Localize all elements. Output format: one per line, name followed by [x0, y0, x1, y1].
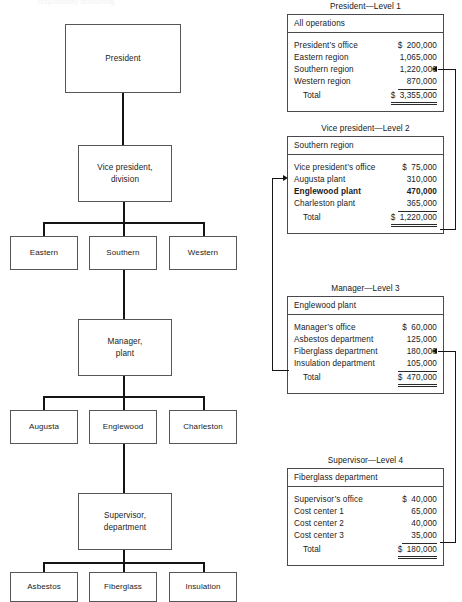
connector-bus-to-charleston: [203, 396, 205, 410]
table-row: Manager’s office $60,000: [294, 322, 437, 334]
org-node-president-label: President: [102, 53, 144, 65]
report-level-2-box: Southern region Vice president’s office …: [287, 136, 444, 234]
table-row: Vice president’s office $75,000: [294, 162, 437, 174]
org-node-asbestos[interactable]: Asbestos: [10, 572, 78, 602]
flow-l2-to-l1-vertical: [455, 69, 456, 230]
table-row-southern-region: Southern region 1,220,000: [294, 64, 437, 76]
report-level-1-title: President—Level 1: [287, 2, 444, 11]
flow-l3-total-out: [272, 370, 289, 371]
org-node-southern-label: Southern: [103, 247, 142, 259]
table-row: Charleston plant 365,000: [294, 198, 437, 211]
table-row: Cost center 3 35,000: [294, 530, 437, 543]
org-node-manager-label-line1: Manager,: [105, 336, 146, 348]
report-level-4: Supervisor—Level 4 Fiberglass department…: [287, 456, 444, 566]
table-row: Augusta plant 310,000: [294, 174, 437, 186]
org-node-asbestos-label: Asbestos: [24, 581, 64, 593]
connector-englewood-to-supervisor: [123, 444, 125, 493]
report-level-3-box: Englewood plant Manager’s office $60,000…: [287, 296, 444, 394]
table-row: Asbestos department 125,000: [294, 334, 437, 346]
flow-arrow-l3-fiberglass: [432, 348, 437, 354]
table-row: Cost center 2 40,000: [294, 518, 437, 530]
flow-l3-fiberglass-in: [438, 351, 455, 352]
org-node-manager-label-line2: plant: [113, 348, 137, 360]
report-level-3-title: Manager—Level 3: [287, 284, 444, 293]
org-node-manager[interactable]: Manager, plant: [78, 319, 172, 376]
report-level-4-body: Supervisor’s office $40,000 Cost center …: [288, 487, 443, 565]
connector-bus-to-eastern: [43, 222, 45, 236]
org-node-western[interactable]: Western: [169, 236, 237, 270]
org-node-fiberglass[interactable]: Fiberglass: [89, 572, 157, 602]
org-node-president[interactable]: President: [65, 24, 181, 93]
org-node-englewood-label: Englewood: [100, 421, 147, 433]
report-level-4-title: Supervisor—Level 4: [287, 456, 444, 465]
table-row: Cost center 1 65,000: [294, 506, 437, 518]
connector-bus-to-western: [203, 222, 205, 236]
table-row-total: Total $1,220,000: [294, 212, 437, 227]
flow-l1-southern-in: [438, 69, 455, 70]
organization-chart: President Vice president, division Easte…: [0, 0, 270, 588]
report-level-1-header: All operations: [288, 15, 443, 33]
report-level-4-box: Fiberglass department Supervisor’s offic…: [287, 468, 444, 566]
org-node-western-label: Western: [185, 247, 221, 259]
org-node-fiberglass-label: Fiberglass: [101, 581, 145, 593]
report-level-3: Manager—Level 3 Englewood plant Manager’…: [287, 284, 444, 394]
org-node-vice-president-label-line1: Vice president,: [94, 162, 156, 174]
report-level-2-body: Vice president’s office $75,000 Augusta …: [288, 155, 443, 233]
org-node-eastern-label: Eastern: [27, 247, 61, 259]
flow-arrow-l1-southern: [432, 66, 437, 72]
report-level-3-header: Englewood plant: [288, 297, 443, 315]
report-level-2-header: Southern region: [288, 137, 443, 155]
org-node-eastern[interactable]: Eastern: [10, 236, 78, 270]
flow-l4-total-out: [440, 542, 456, 543]
report-level-1-body: President’s office $200,000 Eastern regi…: [288, 33, 443, 111]
flow-l4-to-l3-vertical: [455, 351, 456, 543]
org-node-augusta-label: Augusta: [26, 421, 62, 433]
report-level-3-body: Manager’s office $60,000 Asbestos depart…: [288, 315, 443, 393]
table-row: President’s office $200,000: [294, 40, 437, 52]
table-row-total: Total $3,355,000: [294, 90, 437, 105]
flow-l2-total-out: [440, 229, 456, 230]
org-node-englewood[interactable]: Englewood: [89, 410, 157, 444]
org-node-insulation[interactable]: Insulation: [169, 572, 237, 602]
flow-arrow-l2-englewood: [283, 175, 288, 181]
connector-bus-to-englewood: [123, 396, 125, 410]
connector-president-to-vp: [122, 93, 124, 145]
org-node-southern[interactable]: Southern: [89, 236, 157, 270]
table-row-total: Total $180,000: [294, 544, 437, 559]
org-node-charleston[interactable]: Charleston: [169, 410, 237, 444]
table-row: Insulation department 105,000: [294, 358, 437, 371]
org-node-charleston-label: Charleston: [180, 421, 226, 433]
table-row-fiberglass-department: Fiberglass department 180,000: [294, 346, 437, 358]
table-row: Western region 870,000: [294, 76, 437, 89]
table-row-total: Total $470,000: [294, 372, 437, 387]
connector-southern-to-manager: [123, 270, 125, 319]
report-level-1-box: All operations President’s office $200,0…: [287, 14, 444, 112]
org-node-supervisor-label-line2: department: [101, 522, 149, 534]
org-node-vice-president-label-line2: division: [108, 174, 142, 186]
org-node-supervisor-label-line1: Supervisor,: [101, 510, 149, 522]
flow-l3-to-l2-vertical: [272, 178, 273, 371]
connector-bus-to-southern: [123, 222, 125, 236]
org-node-augusta[interactable]: Augusta: [10, 410, 78, 444]
table-row: Eastern region 1,065,000: [294, 52, 437, 64]
table-row-englewood-plant: Englewood plant 470,000: [294, 186, 437, 198]
org-node-vice-president[interactable]: Vice president, division: [78, 145, 172, 202]
connector-manager-stem: [123, 376, 125, 397]
org-node-insulation-label: Insulation: [182, 581, 223, 593]
report-level-2: Vice president—Level 2 Southern region V…: [287, 124, 444, 234]
table-row: Supervisor’s office $40,000: [294, 494, 437, 506]
connector-bus-to-augusta: [43, 396, 45, 410]
connector-vp-stem: [123, 202, 125, 223]
org-node-supervisor[interactable]: Supervisor, department: [78, 493, 172, 550]
report-level-4-header: Fiberglass department: [288, 469, 443, 487]
report-level-2-title: Vice president—Level 2: [287, 124, 444, 133]
report-level-1: President—Level 1 All operations Preside…: [287, 2, 444, 112]
